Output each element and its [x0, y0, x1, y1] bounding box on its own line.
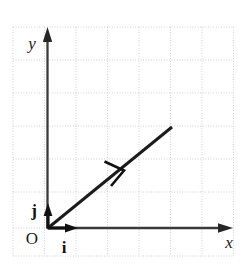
unit-vector-i-label: i	[62, 238, 67, 257]
origin-label: O	[26, 229, 38, 248]
vector-diagram-figure: y x O i j	[0, 0, 249, 277]
y-axis-label: y	[26, 34, 36, 53]
unit-vector-j-label: j	[30, 201, 37, 220]
coordinate-plot-svg: y x O i j	[0, 0, 249, 277]
x-axis-label: x	[224, 233, 233, 252]
